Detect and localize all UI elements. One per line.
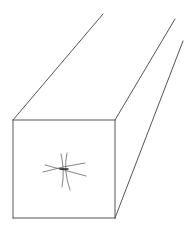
mark-curve-h1 <box>43 163 85 172</box>
receding-edge-top-right <box>115 19 175 120</box>
center-star-mark <box>43 153 86 190</box>
receding-edge-bottom-right <box>115 41 183 218</box>
receding-edge-top-left <box>13 14 103 120</box>
prism-diagram <box>0 0 193 231</box>
receding-edges <box>13 14 183 218</box>
mark-curve-v1 <box>61 154 63 187</box>
